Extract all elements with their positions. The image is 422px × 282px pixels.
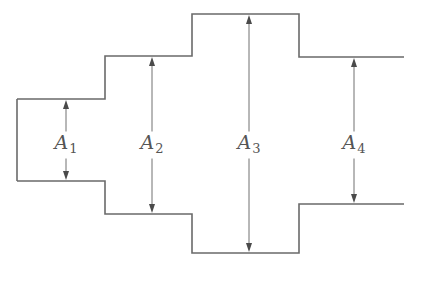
arrow-down-icon — [149, 204, 155, 213]
arrow-down-icon — [351, 194, 357, 203]
dimension-arrows — [63, 15, 357, 252]
pipe-bottom-outline — [17, 181, 404, 253]
arrow-up-icon — [149, 57, 155, 66]
arrow-up-icon — [351, 58, 357, 67]
arrow-up-icon — [246, 15, 252, 24]
pipe-top-outline — [17, 14, 404, 99]
label-a2: A2 — [138, 132, 165, 159]
label-a1: A1 — [52, 132, 79, 159]
label-a4: A4 — [340, 132, 367, 159]
label-a3: A3 — [235, 132, 262, 159]
arrow-down-icon — [63, 171, 69, 180]
arrow-up-icon — [63, 100, 69, 109]
arrow-down-icon — [246, 243, 252, 252]
